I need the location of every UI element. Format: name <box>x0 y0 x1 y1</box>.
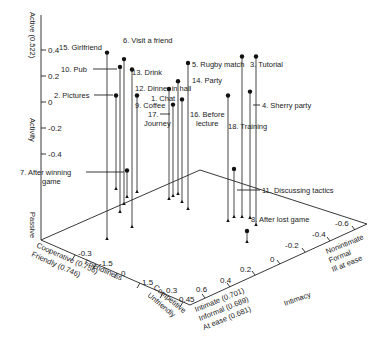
point-marker <box>245 229 249 233</box>
point-label: 9. Coffee <box>135 101 165 110</box>
point-base-marker <box>245 240 249 243</box>
intimacy-tick-label: 0.6 <box>196 285 208 294</box>
friendliness-tick-label: 0 <box>121 269 126 278</box>
point-label: Journey <box>144 119 171 128</box>
activity-tick-label: 0.2 <box>48 72 60 81</box>
point-base-marker <box>130 225 134 228</box>
point-label: 12. Dinner in hall <box>135 84 192 93</box>
point-marker <box>240 54 244 58</box>
intimacy-axis-title: Intimacy <box>283 290 313 308</box>
intimacy-tick-label: -0.6 <box>335 219 349 228</box>
point-label: 17. <box>148 110 158 119</box>
intimacy-tick-mark <box>302 248 305 252</box>
intimacy-tick-label: 0.2 <box>240 265 252 274</box>
point-label: 6. Visit a friend <box>123 36 172 45</box>
point-base-marker <box>167 197 171 200</box>
data-points: 15. Girlfriend6. Visit a friend10. Pub13… <box>20 36 334 243</box>
activity-axis-title: Activity <box>28 118 37 142</box>
friendliness-tick-label: 0.3 <box>166 286 178 295</box>
point-label: 7. After winning <box>20 168 71 177</box>
activity-tick-label: -0.4 <box>48 150 62 159</box>
intimacy-tick-label: 0.4 <box>220 276 232 285</box>
point-marker <box>171 102 175 106</box>
point-base-marker <box>232 215 236 218</box>
intimacy-tick-label: 0 <box>270 255 275 264</box>
point-label: 14. Party <box>192 76 222 85</box>
point-label: 18. Training <box>228 122 267 131</box>
intimacy-tick-mark <box>252 271 255 275</box>
chart-svg: 0.40.20-0.2-0.4 Active (0.522) Activity … <box>0 0 384 343</box>
activity-ticks: 0.40.20-0.2-0.4 <box>41 46 62 159</box>
point-label: 11. Discussing tactics <box>262 186 334 195</box>
friendliness-tick-label: -1.5 <box>99 259 113 268</box>
point-base-marker <box>118 210 122 213</box>
intimacy-tick-label: -0.4 <box>312 230 326 239</box>
point-base-marker <box>186 207 190 210</box>
friendliness-tick-label: -0.3 <box>78 249 92 258</box>
point-marker <box>114 93 118 97</box>
point-marker <box>167 87 171 91</box>
point-marker <box>226 93 230 97</box>
point-label: game <box>42 177 61 186</box>
back-edge-left <box>41 170 200 240</box>
point-base-marker <box>125 195 129 198</box>
point-label: 13. Drink <box>132 68 162 77</box>
intimacy-tick-mark <box>277 260 280 264</box>
point-base-marker <box>114 187 118 190</box>
activity-tick-label: -0.2 <box>48 124 62 133</box>
passive-label: Passive <box>28 212 37 238</box>
friendliness-tick-mark <box>137 283 140 288</box>
point-marker <box>176 79 180 83</box>
point-label: 2. Pictures <box>54 91 90 100</box>
point-marker <box>118 65 122 69</box>
point-marker <box>135 93 139 97</box>
activity-tick-label: 0.4 <box>48 46 60 55</box>
point-base-marker <box>176 192 180 195</box>
point-marker <box>232 167 236 171</box>
point-base-marker <box>180 200 184 203</box>
point-marker <box>248 89 252 93</box>
point-marker <box>186 61 190 65</box>
point-label: 5. Rugby match <box>192 60 245 69</box>
friendliness-tick-label: 0.45 <box>179 295 195 304</box>
point-marker <box>122 57 126 61</box>
intimacy-tick-mark <box>352 226 355 230</box>
point-label: lecture <box>196 119 219 128</box>
point-label: 10. Pub <box>61 65 87 74</box>
point-marker <box>105 50 109 54</box>
point-base-marker <box>135 190 139 193</box>
point-label: 3. Tutorial <box>250 60 283 69</box>
point-label: 4. Sherry party <box>262 101 311 110</box>
point-label: 16. Before <box>190 110 225 119</box>
intimacy-tick-mark <box>202 294 205 298</box>
point-marker <box>254 54 258 58</box>
point-label: 15. Girlfriend <box>59 43 102 52</box>
point-base-marker <box>240 215 244 218</box>
intimacy-tick-label: -0.2 <box>285 241 299 250</box>
point-marker <box>180 97 184 101</box>
friendliness-tick-label: 1.5 <box>142 278 154 287</box>
point-label: 8. After lost game <box>251 215 309 224</box>
point-base-marker <box>171 194 175 197</box>
intimacy-tick-mark <box>327 237 330 241</box>
activity-tick-label: 0 <box>48 98 53 107</box>
point-base-marker <box>105 237 109 240</box>
point-base-marker <box>226 219 230 222</box>
point-marker <box>125 168 129 172</box>
active-label: Active (0.522) <box>28 12 37 59</box>
